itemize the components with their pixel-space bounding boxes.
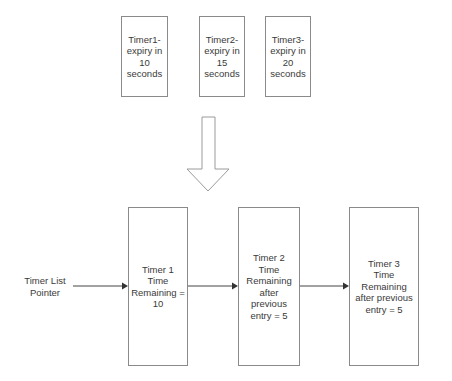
list-node-timer3-label: Timer 3 Time Remaining after previous en… — [355, 258, 413, 316]
timer2-label: Timer2- expiry in 15 seconds — [204, 34, 239, 80]
timer3-box: Timer3- expiry in 20 seconds — [265, 16, 311, 97]
list-node-timer2: Timer 2 Time Remaining after previous en… — [238, 207, 300, 366]
timer1-label: Timer1- expiry in 10 seconds — [127, 34, 162, 80]
list-node-timer1-label: Timer 1 Time Remaining = 10 — [131, 264, 185, 310]
next-arrow-2-to-3 — [300, 283, 349, 290]
list-node-timer3: Timer 3 Time Remaining after previous en… — [349, 207, 419, 366]
timer1-box: Timer1- expiry in 10 seconds — [121, 16, 168, 97]
down-arrow-icon — [187, 117, 229, 191]
list-node-timer1: Timer 1 Time Remaining = 10 — [128, 207, 188, 366]
timer2-box: Timer2- expiry in 15 seconds — [199, 16, 245, 97]
timer-list-pointer-label: Timer List Pointer — [20, 275, 70, 298]
next-arrow-1-to-2 — [188, 283, 238, 290]
pointer-arrow — [73, 283, 128, 290]
list-node-timer2-label: Timer 2 Time Remaining after previous en… — [246, 252, 291, 321]
timer3-label: Timer3- expiry in 20 seconds — [270, 34, 305, 80]
